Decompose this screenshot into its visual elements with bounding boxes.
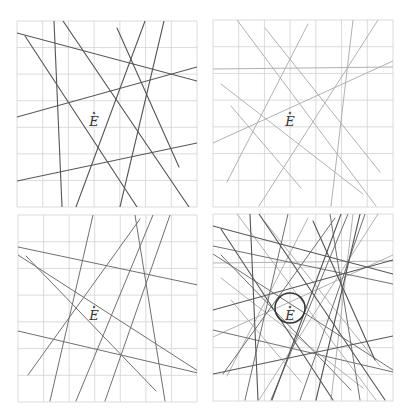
point-e-label: E: [88, 308, 99, 323]
panel-bottom-right: E: [213, 214, 393, 401]
line-c: [213, 254, 393, 370]
line-c: [28, 219, 140, 375]
line-arrangement: [213, 20, 393, 206]
grid: [18, 215, 197, 402]
panel-canvas: E: [213, 20, 393, 207]
line-arrangement: [18, 215, 198, 401]
line-a: [272, 214, 341, 400]
panel-canvas: E: [18, 215, 197, 402]
line-arrangement: [17, 21, 197, 207]
line-c: [18, 255, 198, 371]
line-c: [26, 256, 156, 391]
line-a: [54, 21, 62, 207]
line-b: [213, 67, 393, 69]
line-c: [223, 218, 335, 374]
line-b: [259, 20, 378, 206]
line-b: [227, 24, 308, 182]
line-c: [50, 215, 93, 401]
line-a: [17, 143, 197, 181]
line-c: [18, 247, 198, 285]
line-arrangement: [213, 214, 393, 400]
panel-top-left: E: [17, 21, 197, 207]
panel-top-right: E: [213, 20, 393, 207]
line-a: [76, 21, 145, 207]
grid: [213, 20, 393, 207]
panel-canvas: E: [17, 21, 197, 207]
line-b: [259, 214, 378, 400]
panel-bottom-left: E: [18, 215, 197, 402]
panel-canvas: E: [213, 214, 393, 401]
grid: [213, 214, 393, 401]
point-e-label: E: [284, 308, 295, 323]
point-e-label: E: [284, 114, 295, 129]
point-e-label: E: [88, 114, 99, 129]
